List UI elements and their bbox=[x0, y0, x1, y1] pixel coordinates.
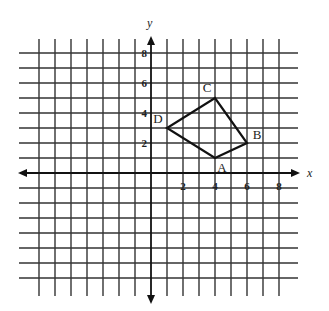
y-tick-label: 2 bbox=[142, 137, 148, 149]
y-axis-up-arrow-icon bbox=[147, 36, 155, 45]
vertex-label-d: D bbox=[153, 111, 162, 126]
x-tick-label: 2 bbox=[180, 180, 186, 192]
x-tick-label: 4 bbox=[212, 180, 218, 192]
coordinate-plane-figure: xy 24682468 ABCD bbox=[0, 0, 329, 311]
vertex-label-a: A bbox=[217, 160, 227, 175]
y-tick-label: 8 bbox=[142, 47, 148, 59]
x-axis-left-arrow-icon bbox=[18, 169, 27, 177]
vertex-label-b: B bbox=[253, 127, 262, 142]
coordinate-plane: xy 24682468 ABCD bbox=[0, 0, 329, 311]
y-tick-label: 4 bbox=[142, 107, 148, 119]
x-axis-label: x bbox=[306, 166, 313, 180]
y-axis-label: y bbox=[146, 16, 153, 30]
x-tick-label: 6 bbox=[244, 180, 250, 192]
y-axis-down-arrow-icon bbox=[147, 295, 155, 304]
y-tick-label: 6 bbox=[142, 77, 148, 89]
grid-lines bbox=[19, 39, 298, 296]
axes: xy bbox=[18, 16, 313, 304]
vertex-label-c: C bbox=[203, 80, 212, 95]
x-axis-right-arrow-icon bbox=[291, 169, 300, 177]
x-tick-label: 8 bbox=[276, 180, 282, 192]
